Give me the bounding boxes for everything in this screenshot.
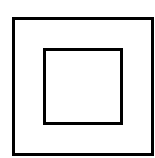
inner-square	[43, 48, 123, 125]
